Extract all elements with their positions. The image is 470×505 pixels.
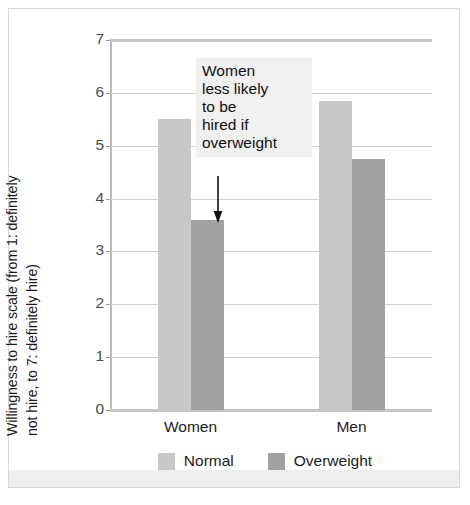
x-axis-label-men: Men	[292, 418, 412, 436]
annotation-line-1: Women	[202, 62, 306, 80]
bar-women-overweight	[191, 220, 224, 410]
y-axis-title-line-1: Willingness to hire scale (from 1: defin…	[4, 16, 22, 436]
annotation-callout: Womenless likelyto behired ifoverweight	[196, 58, 312, 157]
y-tick-label-4: 4	[80, 189, 104, 207]
annotation-arrow-icon	[212, 176, 224, 224]
y-axis-title-line-2: not hire, to 7: definitely hire)	[24, 16, 42, 436]
y-tick-label-1: 1	[80, 347, 104, 365]
legend-swatch-normal	[158, 453, 175, 470]
annotation-line-3: to be	[202, 98, 306, 116]
y-tick-label-0: 0	[80, 400, 104, 418]
y-axis-title: Willingness to hire scale (from 1: defin…	[0, 0, 58, 430]
legend-entry-overweight[interactable]: Overweight	[268, 452, 372, 470]
bar-men-normal	[319, 101, 352, 410]
gridline-7	[110, 39, 432, 42]
y-tick-label-6: 6	[80, 83, 104, 101]
annotation-line-2: less likely	[202, 80, 306, 98]
annotation-line-4: hired if	[202, 116, 306, 134]
y-tick-label-5: 5	[80, 136, 104, 154]
legend-swatch-overweight	[268, 453, 285, 470]
chart-figure: Willingness to hire scale (from 1: defin…	[0, 0, 470, 505]
legend-label-normal: Normal	[184, 452, 234, 470]
bar-men-overweight	[352, 159, 385, 410]
legend-entry-normal[interactable]: Normal	[158, 452, 234, 470]
y-tick-label-7: 7	[80, 30, 104, 48]
y-tick-label-3: 3	[80, 241, 104, 259]
x-axis-label-women: Women	[131, 418, 251, 436]
bar-women-normal	[158, 119, 191, 410]
annotation-line-5: overweight	[202, 134, 306, 152]
legend-label-overweight: Overweight	[294, 452, 372, 470]
figure-bottom-band	[9, 470, 459, 487]
chart-legend: NormalOverweight	[110, 452, 420, 470]
y-tick-label-2: 2	[80, 294, 104, 312]
